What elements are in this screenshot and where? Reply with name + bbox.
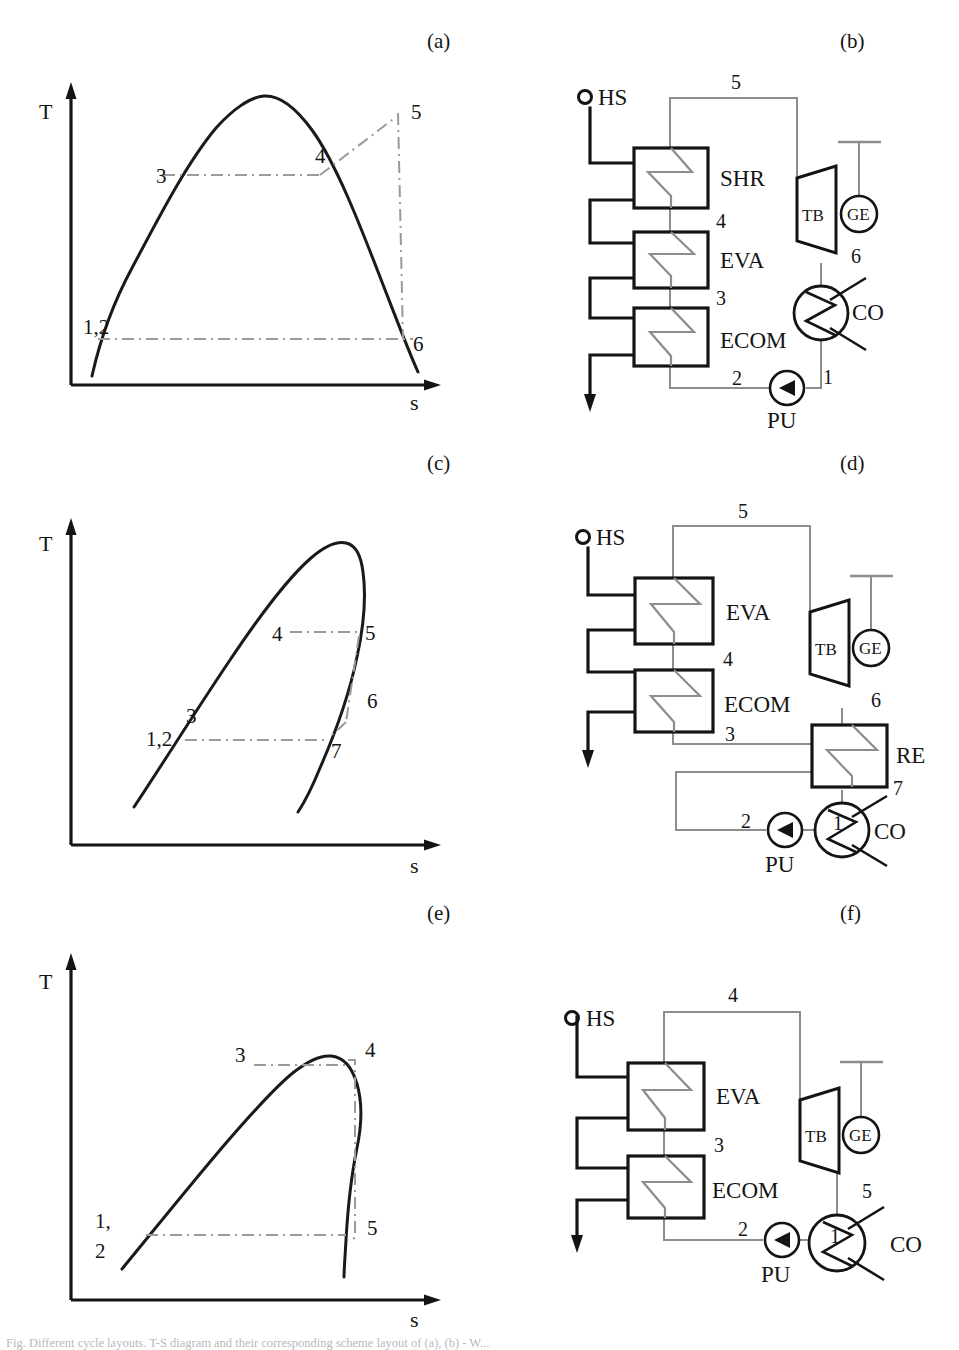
- panel-e-point-1: 1,: [95, 1209, 111, 1233]
- panel-c-point-5: 5: [365, 621, 376, 645]
- panel-f-stream-1: 1: [830, 1225, 840, 1247]
- panel-d-stream-5: 5: [738, 500, 748, 522]
- panel-b-stream-5: 5: [731, 71, 741, 93]
- panel-e-x-axis-label: s: [410, 1307, 419, 1332]
- panel-a-y-axis-label: T: [39, 99, 53, 124]
- co-label: CO: [852, 300, 884, 325]
- panel-e-y-axis-label: T: [39, 969, 53, 994]
- panel-e-point-3: 3: [235, 1043, 246, 1067]
- panel-f-stream-4: 4: [728, 984, 738, 1006]
- panel-f-stream-2: 2: [738, 1218, 748, 1240]
- panel-f-stream-5: 5: [862, 1180, 872, 1202]
- panel-c-point-12: 1,2: [146, 727, 172, 751]
- panel-f-label: (f): [840, 901, 861, 925]
- panel-e-point-5: 5: [367, 1216, 378, 1240]
- panel-d-stream-4: 4: [723, 648, 733, 670]
- panel-c-point-4: 4: [272, 622, 283, 646]
- re-label: RE: [896, 743, 925, 768]
- ecom-label: ECOM: [724, 692, 790, 717]
- co-label: CO: [890, 1232, 922, 1257]
- panel-f-hs-label: HS: [586, 1006, 615, 1031]
- tb-label: TB: [805, 1127, 827, 1146]
- figure-caption: Fig. Different cycle layouts. T-S diagra…: [0, 1337, 959, 1350]
- panel-d-stream-6: 6: [871, 689, 881, 711]
- panel-a-label: (a): [427, 29, 450, 53]
- panel-e-point-2: 2: [95, 1239, 106, 1263]
- panel-c-point-6: 6: [367, 689, 378, 713]
- panel-e-label: (e): [427, 901, 450, 925]
- panel-d-stream-2: 2: [741, 810, 751, 832]
- pu-label: PU: [761, 1262, 791, 1287]
- panel-c-y-axis-label: T: [39, 531, 53, 556]
- ge-label: GE: [847, 205, 870, 224]
- co-label: CO: [874, 819, 906, 844]
- panel-b-stream-3: 3: [716, 287, 726, 309]
- panel-d-stream-3: 3: [725, 723, 735, 745]
- panel-b-stream-2: 2: [732, 367, 742, 389]
- panel-d-stream-7: 7: [893, 777, 903, 799]
- panel-d-label: (d): [840, 451, 865, 475]
- panel-a-point-5: 5: [411, 100, 422, 124]
- panel-d-hs-label: HS: [596, 525, 625, 550]
- panel-a-point-6: 6: [413, 332, 424, 356]
- panel-a-point-4: 4: [315, 144, 326, 168]
- panel-b-stream-1: 1: [823, 366, 833, 388]
- pu-label: PU: [765, 852, 795, 877]
- panel-f-stream-3: 3: [714, 1134, 724, 1156]
- tb-label: TB: [815, 640, 837, 659]
- ecom-label: ECOM: [720, 328, 786, 353]
- re-box: [812, 725, 887, 787]
- shr-label: SHR: [720, 166, 765, 191]
- panel-a-x-axis-label: s: [410, 390, 419, 415]
- panel-d-turbine: TB: [810, 600, 849, 686]
- panel-a-point-12: 1,2: [83, 315, 109, 339]
- panel-b-label: (b): [840, 29, 865, 53]
- panel-c-x-axis-label: s: [410, 853, 419, 878]
- panel-c-label: (c): [427, 451, 450, 475]
- ecom-label: ECOM: [712, 1178, 778, 1203]
- pu-label: PU: [767, 408, 797, 433]
- panel-b-hs-label: HS: [598, 85, 627, 110]
- panel-e-point-4: 4: [365, 1038, 376, 1062]
- panel-c-point-3: 3: [186, 704, 197, 728]
- tb-label: TB: [802, 206, 824, 225]
- figure-canvas: (a) T s 1,2 3 4 5 6 (b): [0, 0, 959, 1350]
- panel-f-turbine: TB: [800, 1088, 839, 1173]
- panel-d-stream-1: 1: [833, 812, 843, 834]
- figure-root: (a) T s 1,2 3 4 5 6 (b): [0, 0, 959, 1350]
- eva-label: EVA: [720, 248, 765, 273]
- ge-label: GE: [849, 1126, 872, 1145]
- panel-b-stream-4: 4: [716, 210, 726, 232]
- panel-c-point-7: 7: [331, 739, 342, 763]
- ge-label: GE: [859, 639, 882, 658]
- eva-label: EVA: [726, 600, 771, 625]
- panel-b-turbine: TB: [797, 166, 836, 253]
- panel-a-point-3: 3: [156, 164, 167, 188]
- eva-label: EVA: [716, 1084, 761, 1109]
- panel-b-stream-6: 6: [851, 245, 861, 267]
